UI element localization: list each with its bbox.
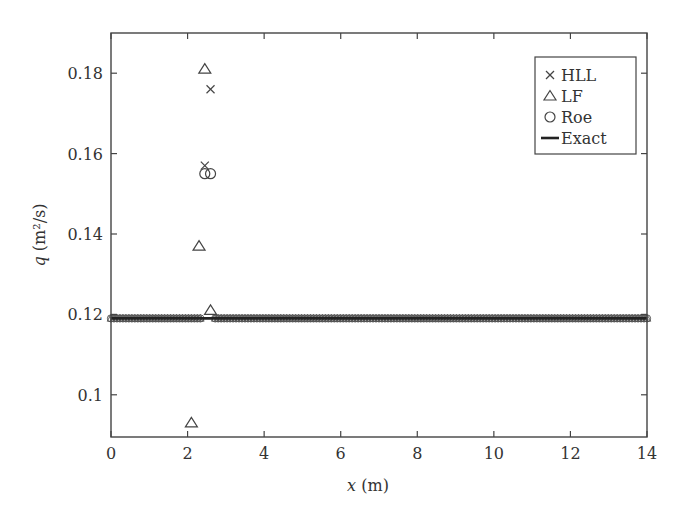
y-tick-label: 0.14: [67, 225, 103, 244]
lf-marker: [205, 305, 217, 315]
x-tick-label: 6: [336, 444, 346, 463]
lf-marker: [199, 64, 211, 74]
lf-marker: [185, 417, 197, 427]
y-tick-label: 0.12: [67, 305, 103, 324]
y-axis-label: q (m²/s): [30, 203, 49, 266]
hll-marker: [207, 85, 215, 93]
y-tick-label: 0.18: [67, 64, 103, 83]
x-tick-label: 12: [560, 444, 580, 463]
x-tick-label: 10: [484, 444, 504, 463]
x-tick-label: 4: [259, 444, 269, 463]
x-tick-label: 0: [106, 444, 116, 463]
y-tick-label: 0.1: [78, 386, 103, 405]
chart: 024681012140.10.120.140.160.18 HLLLFRoeE…: [0, 0, 689, 512]
legend: HLLLFRoeExact: [535, 57, 636, 154]
legend-label: Exact: [561, 129, 607, 148]
legend-label: HLL: [561, 66, 597, 85]
y-tick-label: 0.16: [67, 145, 103, 164]
x-tick-label: 14: [637, 444, 657, 463]
roe-marker: [200, 169, 210, 179]
x-tick-label: 8: [412, 444, 422, 463]
x-axis-label: x (m): [347, 476, 389, 495]
lf-marker: [193, 241, 205, 251]
x-tick-label: 2: [182, 444, 192, 463]
legend-label: Roe: [561, 108, 592, 127]
legend-label: LF: [561, 87, 583, 106]
roe-marker: [206, 169, 216, 179]
